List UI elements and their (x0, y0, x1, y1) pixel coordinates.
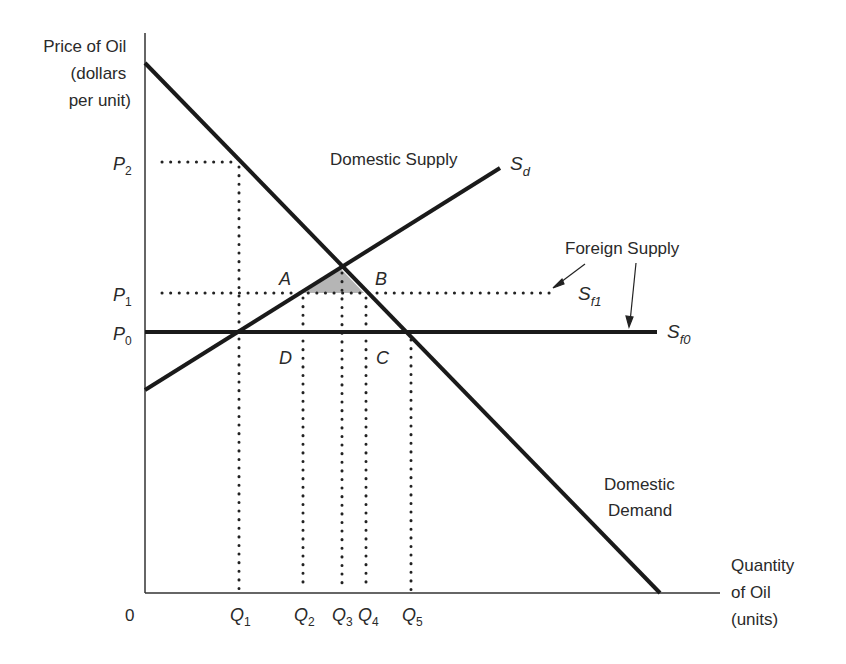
origin-label: 0 (125, 606, 134, 625)
svg-text:Price of Oil (dollars: Price of Oil (dollars per unit) (43, 37, 131, 110)
x-axis-label-line-2: of Oil (731, 583, 771, 602)
x-axis-label-line-3: (units) (731, 610, 778, 629)
y-axis-label-line-2: (dollars (71, 64, 127, 83)
y-tick-p2: P2 (113, 154, 132, 178)
point-a-label: A (278, 269, 291, 289)
point-c-label: C (376, 348, 390, 368)
foreign-supply-label: Foreign Supply (565, 239, 680, 258)
sf0-label: Sf0 (667, 321, 691, 347)
x-tick-q4: Q4 (358, 605, 379, 629)
domestic-supply-line (145, 168, 500, 390)
domestic-supply-label: Domestic Supply (330, 150, 458, 169)
y-tick-p1: P1 (113, 285, 132, 309)
y-tick-p0: P0 (113, 324, 132, 348)
dotted-guides (162, 162, 552, 590)
oil-market-chart: Price of Oil (dollars per unit) P2 P1 P0… (0, 0, 846, 664)
domestic-demand-line (145, 63, 660, 593)
point-b-label: B (375, 269, 387, 289)
x-tick-q5: Q5 (402, 605, 423, 629)
svg-text:Quantity of Oil (units: Quantity of Oil (units) (731, 556, 799, 629)
y-axis-label-line-3: per unit) (69, 91, 131, 110)
domestic-demand-label: Domestic Demand (604, 475, 680, 520)
sd-label: Sd (510, 153, 531, 179)
x-tick-q1: Q1 (230, 605, 251, 629)
sf1-label: Sf1 (578, 283, 602, 309)
point-d-label: D (279, 348, 292, 368)
x-tick-q2: Q2 (294, 605, 315, 629)
x-tick-q3: Q3 (332, 605, 353, 629)
y-axis-label-line-1: Price of Oil (43, 37, 126, 56)
x-axis-label-line-1: Quantity (731, 556, 795, 575)
